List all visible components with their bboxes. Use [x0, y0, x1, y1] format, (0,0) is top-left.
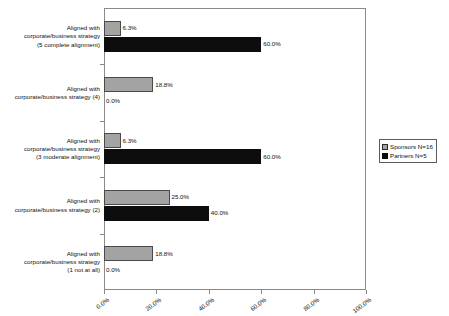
category-label-line: Aligned with [2, 249, 100, 257]
category-label-line: corporate/business strategy (4) [2, 93, 100, 101]
x-axis-tick-marks [104, 290, 366, 295]
bar-chart: Aligned withcorporate/business strategy(… [0, 0, 449, 316]
chart-category-row: Aligned withcorporate/business strategy(… [0, 234, 449, 290]
category-bars: 6.3%60.0% [104, 8, 366, 64]
category-label: Aligned withcorporate/business strategy … [2, 197, 100, 213]
category-label-line: Aligned with [2, 84, 100, 92]
category-label: Aligned withcorporate/business strategy(… [2, 137, 100, 162]
chart-category-row: Aligned withcorporate/business strategy … [0, 177, 449, 233]
partners-swatch-icon [382, 153, 388, 159]
category-label: Aligned withcorporate/business strategy … [2, 84, 100, 100]
legend-item-sponsors: Sponsors N=16 [382, 142, 433, 151]
bar-sponsors [104, 133, 121, 148]
category-label-line: corporate/business strategy [2, 32, 100, 40]
bar-value-partners: 60.0% [263, 153, 281, 161]
category-bars: 18.8%0.0% [104, 234, 366, 290]
bar-partners [104, 149, 261, 164]
category-label-line: (5 complete alignment) [2, 40, 100, 48]
bar-value-sponsors: 25.0% [172, 193, 190, 201]
bar-value-partners: 0.0% [106, 97, 120, 105]
category-label-line: (1 not at all) [2, 266, 100, 274]
bar-value-partners: 60.0% [263, 40, 281, 48]
bar-partners [104, 206, 209, 221]
category-bars: 25.0%40.0% [104, 177, 366, 233]
bar-value-partners: 40.0% [211, 209, 229, 217]
x-axis-tick-label: 20.0% [138, 296, 163, 316]
y-axis-tick [100, 64, 104, 65]
legend-item-partners: Partners N=5 [382, 151, 433, 160]
x-axis-tick-label: 60.0% [242, 296, 267, 316]
category-label-line: corporate/business strategy [2, 145, 100, 153]
x-axis-tick-label: 40.0% [190, 296, 215, 316]
x-axis-tick [104, 290, 105, 294]
bar-value-partners: 0.0% [106, 266, 120, 274]
y-axis-tick [100, 177, 104, 178]
chart-category-row: Aligned withcorporate/business strategy … [0, 64, 449, 120]
x-axis-tick [314, 290, 315, 294]
x-axis-tick [209, 290, 210, 294]
y-axis-tick [100, 234, 104, 235]
category-bars: 18.8%0.0% [104, 64, 366, 120]
x-axis-tick [261, 290, 262, 294]
bar-value-sponsors: 18.8% [155, 250, 173, 258]
category-label-line: Aligned with [2, 197, 100, 205]
category-label-line: (3 moderate alignment) [2, 153, 100, 161]
x-axis-tick [156, 290, 157, 294]
legend-label-partners: Partners N=5 [390, 152, 427, 160]
bar-sponsors [104, 246, 153, 261]
chart-legend: Sponsors N=16 Partners N=5 [379, 139, 437, 163]
bar-sponsors [104, 77, 153, 92]
category-label-line: Aligned with [2, 137, 100, 145]
category-label-line: corporate/business strategy [2, 258, 100, 266]
chart-category-row: Aligned withcorporate/business strategy(… [0, 8, 449, 64]
category-label: Aligned withcorporate/business strategy(… [2, 249, 100, 274]
y-axis-tick [100, 121, 104, 122]
bar-sponsors [104, 21, 121, 36]
x-axis-tick-label: 0.0% [85, 296, 110, 316]
legend-label-sponsors: Sponsors N=16 [390, 143, 433, 151]
category-label: Aligned withcorporate/business strategy(… [2, 24, 100, 49]
bar-value-sponsors: 6.3% [123, 24, 137, 32]
bar-sponsors [104, 190, 170, 205]
sponsors-swatch-icon [382, 144, 388, 150]
x-axis-tick-label: 100.0% [347, 296, 372, 316]
category-label-line: Aligned with [2, 24, 100, 32]
bar-value-sponsors: 18.8% [155, 81, 173, 89]
category-bars: 6.3%60.0% [104, 121, 366, 177]
category-label-line: corporate/business strategy (2) [2, 205, 100, 213]
x-axis-tick [366, 290, 367, 294]
bar-partners [104, 37, 261, 52]
bar-value-sponsors: 6.3% [123, 137, 137, 145]
x-axis-tick-label: 80.0% [295, 296, 320, 316]
